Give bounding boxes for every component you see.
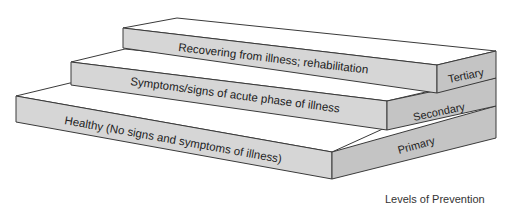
diagram-caption: Levels of Prevention <box>385 193 485 205</box>
levels-of-prevention-diagram: Healthy (No signs and symptoms of illnes… <box>0 0 508 215</box>
